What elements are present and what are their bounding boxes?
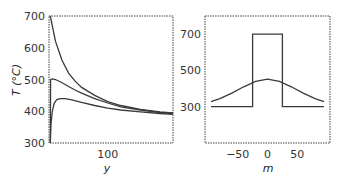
y-tick-label: 500 — [180, 64, 201, 77]
series-upper-line — [50, 16, 173, 113]
left-x-ticks: 100 — [97, 148, 118, 161]
y-tick-label: 700 — [24, 10, 45, 23]
x-tick-label: 100 — [97, 148, 118, 161]
left-curves — [50, 16, 173, 143]
y-tick-label: 400 — [24, 105, 45, 118]
right-x-axis-label: m — [263, 162, 274, 175]
y-tick-label: 500 — [24, 74, 45, 87]
left-panel: 300400500600700 100 y T (°C) — [10, 10, 173, 175]
right-curves — [211, 34, 324, 107]
left-y-axis-label: T (°C) — [10, 64, 23, 96]
x-tick-label: −50 — [226, 148, 249, 161]
left-x-axis-label: y — [103, 162, 111, 175]
y-tick-label: 600 — [24, 42, 45, 55]
right-x-ticks: −50050 — [226, 148, 304, 161]
figure: 300400500600700 100 y T (°C) 300500700 −… — [0, 0, 338, 182]
series-step-line — [211, 34, 324, 107]
y-tick-label: 300 — [24, 137, 45, 150]
series-gaussian-line — [211, 79, 324, 102]
x-tick-label: 50 — [290, 148, 304, 161]
series-lower-line — [50, 99, 173, 143]
left-plot-frame — [49, 16, 173, 143]
y-tick-label: 700 — [180, 28, 201, 41]
x-tick-label: 0 — [264, 148, 271, 161]
left-y-ticks: 300400500600700 — [24, 10, 45, 150]
y-tick-label: 300 — [180, 101, 201, 114]
right-panel: 300500700 −50050 m — [180, 16, 330, 175]
right-y-ticks: 300500700 — [180, 28, 201, 114]
